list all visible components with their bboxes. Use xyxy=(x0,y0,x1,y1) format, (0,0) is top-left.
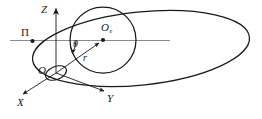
orbit-ellipse xyxy=(29,1,253,96)
body-center-letter: O xyxy=(101,21,109,33)
x-axis-line xyxy=(23,73,56,94)
origin-label: O xyxy=(38,65,46,76)
radius-label: r xyxy=(83,53,87,63)
orbital-geometry-figure xyxy=(0,0,262,119)
body-center-subscript: e xyxy=(109,27,112,34)
perigee-point xyxy=(30,39,34,43)
diagram-canvas: Z Π Oe θ r O X Y xyxy=(0,0,262,119)
theta-angle-label: θ xyxy=(73,39,78,49)
z-axis-label: Z xyxy=(41,4,47,15)
x-axis-label: X xyxy=(17,97,24,108)
y-axis-label: Y xyxy=(107,93,113,104)
body-center-label: Oe xyxy=(101,22,112,33)
body-center-point xyxy=(101,38,105,42)
perigee-label: Π xyxy=(21,27,29,38)
